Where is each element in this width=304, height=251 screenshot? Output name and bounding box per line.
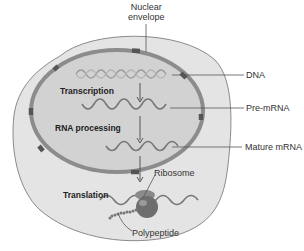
label-mature-mrna: Mature mRNA xyxy=(245,142,302,152)
step-translation: Translation xyxy=(63,190,108,200)
step-rna-processing: RNA processing xyxy=(55,123,121,133)
ribosome xyxy=(135,190,158,218)
label-polypeptide: Polypeptide xyxy=(132,228,179,238)
step-transcription: Transcription xyxy=(60,86,114,96)
label-nuclear-envelope-line1: Nuclear xyxy=(128,2,165,12)
label-dna: DNA xyxy=(246,70,265,80)
label-nuclear-envelope-line2: envelope xyxy=(128,12,165,22)
label-ribosome: Ribosome xyxy=(154,168,195,178)
diagram-canvas xyxy=(0,0,304,251)
label-nuclear-envelope: Nuclear envelope xyxy=(128,2,165,22)
label-pre-mrna: Pre-mRNA xyxy=(246,103,290,113)
